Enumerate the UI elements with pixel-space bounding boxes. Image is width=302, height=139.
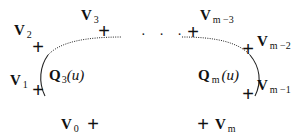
label-qm-symbol: Q <box>198 67 210 83</box>
label-vm2-symbol: V <box>257 33 268 49</box>
label-v0: V0 <box>61 117 79 133</box>
label-vm1-symbol: V <box>257 77 268 93</box>
label-qm-arg: (u) <box>221 67 239 83</box>
marker-vm1: + <box>241 84 255 104</box>
label-vm3: Vm −3 <box>200 8 234 24</box>
label-v2-symbol: V <box>14 22 25 38</box>
marker-vm2: + <box>241 39 255 59</box>
label-qm-subscript: m <box>212 74 220 85</box>
label-q3-subscript: 3 <box>62 74 67 85</box>
label-vm3-symbol: V <box>200 7 211 23</box>
label-v3-symbol: V <box>81 7 92 23</box>
curve-diagram <box>0 0 302 139</box>
label-q3: Q3(u) <box>49 68 84 84</box>
marker-vm: + <box>196 114 210 134</box>
marker-v0: + <box>86 114 100 134</box>
label-vm-subscript: m <box>228 123 236 134</box>
label-vm-symbol: V <box>215 116 226 132</box>
marker-v1: + <box>31 80 45 100</box>
label-vm2: Vm −2 <box>257 34 291 50</box>
label-vm1: Vm −1 <box>257 78 291 94</box>
label-q3-symbol: Q <box>49 67 61 83</box>
label-v2: V2 <box>14 23 32 39</box>
label-vm3-subscript: m −3 <box>213 14 234 25</box>
marker-vm3: + <box>186 22 200 42</box>
label-vm: Vm <box>215 117 236 133</box>
label-vm1-subscript: m −1 <box>270 84 291 95</box>
label-v0-subscript: 0 <box>74 123 79 134</box>
label-v0-symbol: V <box>61 116 72 132</box>
marker-v3: + <box>97 21 111 41</box>
label-v2-subscript: 2 <box>27 29 32 40</box>
label-v3: V3 <box>81 8 99 24</box>
label-v3-subscript: 3 <box>94 14 99 25</box>
label-vm2-subscript: m −2 <box>270 40 291 51</box>
label-q3-arg: (u) <box>67 67 85 83</box>
label-v1: V1 <box>10 73 28 89</box>
ellipsis: · · · <box>141 27 187 43</box>
marker-v2: + <box>31 37 45 57</box>
label-v1-subscript: 1 <box>23 79 28 90</box>
label-qm: Qm(u) <box>198 68 239 84</box>
label-v1-symbol: V <box>10 72 21 88</box>
